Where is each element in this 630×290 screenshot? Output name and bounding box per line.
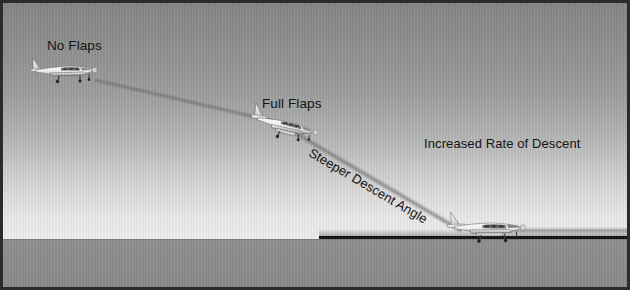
label-increased-rate-of-descent: Increased Rate of Descent: [424, 136, 580, 151]
airplane-no-flaps-icon: [30, 55, 102, 85]
diagram-canvas: No Flaps Full Flaps Steeper Descent Angl…: [3, 3, 627, 287]
label-full-flaps: Full Flaps: [262, 96, 322, 111]
ground-plane: [3, 239, 627, 287]
airplane-landing-icon: [447, 209, 533, 245]
label-no-flaps: No Flaps: [47, 38, 102, 53]
flaps-descent-diagram: No Flaps Full Flaps Steeper Descent Angl…: [0, 0, 630, 290]
